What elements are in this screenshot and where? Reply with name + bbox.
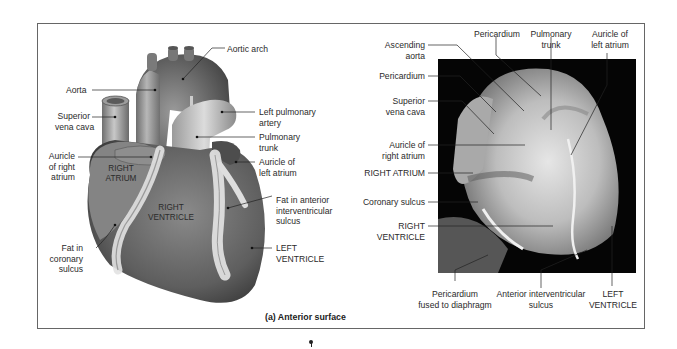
- label-right-ventricle-photo: RIGHT VENTRICLE: [365, 221, 425, 242]
- label-superior-vena-cava-photo: Superior vena cava: [365, 96, 425, 117]
- label-pericardium-fused-diaphragm: Pericardium fused to diaphragm: [413, 289, 497, 310]
- label-right-atrium-photo: RIGHT ATRIUM: [355, 168, 425, 179]
- label-left-ventricle-photo: LEFT VENTRICLE: [588, 289, 638, 310]
- label-pulmonary-trunk-photo: Pulmonary trunk: [526, 29, 576, 50]
- bullet-stem: [311, 343, 312, 347]
- label-auricle-right-atrium-photo: Auricle of right atrium: [360, 140, 425, 161]
- label-coronary-sulcus: Coronary sulcus: [350, 197, 425, 208]
- label-pericardium-top: Pericardium: [474, 29, 520, 40]
- label-anterior-interventricular-sulcus: Anterior interventricular sulcus: [496, 289, 586, 310]
- figure-caption: (a) Anterior surface: [265, 312, 346, 322]
- label-auricle-left-atrium-photo: Auricle of left atrium: [585, 29, 635, 50]
- label-ascending-aorta: Ascending aorta: [370, 40, 425, 61]
- label-pericardium-left: Pericardium: [365, 71, 425, 82]
